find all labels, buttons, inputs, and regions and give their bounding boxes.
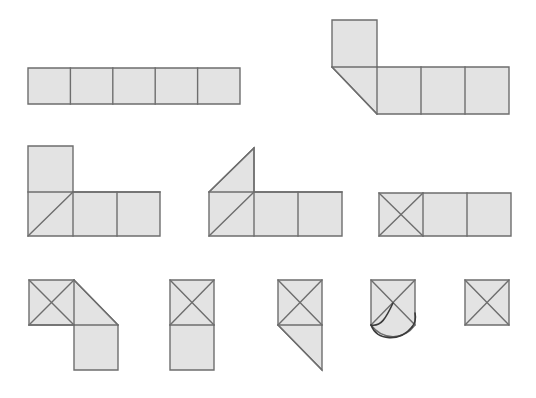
shape-single-square-with-X xyxy=(465,280,509,325)
shape-row-of-five-squares xyxy=(28,68,240,104)
shape-row-of-three-with-X xyxy=(379,193,511,236)
shape-X-square-with-folded-flap xyxy=(371,280,416,338)
row-of-three-with-X-face xyxy=(379,193,511,236)
X-square-with-folded-flap-face xyxy=(371,280,415,337)
shape-vertical-domino-with-X xyxy=(170,280,214,370)
row-of-five-squares-face xyxy=(28,68,240,104)
polyomino-nets-figure xyxy=(0,0,536,398)
